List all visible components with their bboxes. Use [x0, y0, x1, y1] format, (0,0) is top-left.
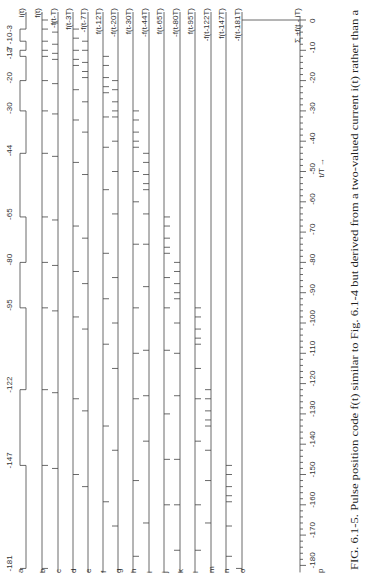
- axis-tick-label: -80: [308, 253, 317, 265]
- axis-tick-label: -130: [308, 400, 317, 417]
- row-label-a: i(t): [17, 8, 26, 18]
- transition-label: -147: [5, 452, 14, 469]
- axis-tick-label: -180: [308, 552, 317, 569]
- row-label: f(t-30T): [124, 8, 133, 35]
- waveform-a: [20, 12, 26, 568]
- row-label: f(t-95T): [186, 8, 195, 35]
- row-label: -f(t-T): [49, 8, 58, 28]
- row-label: -f(t-7T): [79, 8, 88, 33]
- row-letter: g: [114, 569, 123, 573]
- axis-tick-label: -140: [308, 431, 317, 448]
- axis-tick-label: -160: [308, 491, 317, 508]
- transition-label: -122: [5, 376, 14, 393]
- row-j: [164, 12, 170, 572]
- row-o: [236, 12, 242, 572]
- axis-tick-label: -20: [308, 71, 317, 83]
- row-label: -f(t-44T): [140, 8, 149, 37]
- row-letter: m: [207, 566, 216, 573]
- row-label: f(t): [33, 8, 42, 18]
- row-label: f(t-12T): [94, 8, 103, 35]
- transition-label: -30: [5, 102, 14, 114]
- axis-tick-label: -110: [308, 340, 317, 356]
- row-letter: i: [145, 571, 154, 573]
- axis-label: t/T →: [317, 158, 326, 177]
- axis-tick-label: -60: [308, 193, 317, 205]
- row-letter: h: [129, 569, 138, 573]
- row-letter: p: [316, 568, 325, 573]
- row-letter: o: [238, 568, 247, 573]
- axis-tick-label: -100: [308, 309, 317, 326]
- row-e: [82, 12, 88, 572]
- axis-tick-label: -90: [308, 284, 317, 296]
- row-letter: e: [84, 568, 93, 573]
- row-m: [205, 12, 211, 572]
- row-label: -f(t-181T): [233, 8, 242, 42]
- row-label: f(t-147T): [217, 8, 226, 39]
- row-letter: l: [191, 571, 200, 573]
- pulse-position-figure: -3-10-7-12-20-30-44-65-80-95-122-147-181…: [0, 0, 376, 578]
- row-letter: n: [222, 569, 231, 573]
- transition-label: -95: [5, 299, 14, 311]
- transition-label: -3: [5, 24, 14, 32]
- sum-label: Σ ±f(t - iT): [293, 8, 302, 43]
- row-letter: j: [160, 571, 169, 574]
- row-label: -f(t-122T): [202, 8, 211, 42]
- row-k: [174, 12, 180, 572]
- axis-tick-label: -150: [308, 461, 317, 478]
- axis-tick-label: -170: [308, 522, 317, 539]
- row-label: -f(t-80T): [171, 8, 180, 37]
- transition-label: -65: [5, 208, 14, 220]
- row-letter: k: [176, 568, 185, 573]
- figure-caption: FIG. 6.1-5. Pulse position code f(t) sim…: [349, 10, 361, 570]
- axis-tick-label: 0: [308, 18, 317, 23]
- axis-tick-label: -120: [308, 370, 317, 387]
- row-d: [73, 12, 79, 572]
- row-c: [52, 12, 58, 572]
- axis-tick-label: -30: [308, 102, 317, 114]
- axis-tick-label: -50: [308, 162, 317, 174]
- row-n: [226, 12, 232, 572]
- row-letter: f: [99, 570, 108, 573]
- row-label: f(t-65T): [155, 8, 164, 35]
- row-label: f(t-3T): [64, 8, 73, 30]
- transition-label: -44: [5, 144, 14, 156]
- row-b: [42, 12, 48, 572]
- axis-tick-label: -40: [308, 132, 317, 144]
- transition-label: -20: [5, 71, 14, 83]
- row-l: [195, 12, 201, 572]
- transition-label: -181: [5, 555, 14, 572]
- row-letter: b: [38, 568, 47, 573]
- row-label: -f(t-20T): [109, 8, 118, 37]
- row-letter: d: [69, 569, 78, 573]
- row-g: [112, 12, 118, 572]
- row-letter: a: [16, 568, 25, 573]
- row-letter: c: [54, 569, 63, 573]
- row-i: [143, 12, 149, 572]
- transition-label: -10: [5, 32, 14, 44]
- transition-label: -12: [5, 47, 14, 59]
- axis-tick-label: -10: [308, 41, 317, 53]
- axis-tick-label: -70: [308, 223, 317, 235]
- transition-label: -80: [5, 253, 14, 265]
- row-h: [133, 12, 139, 572]
- row-f: [103, 12, 109, 572]
